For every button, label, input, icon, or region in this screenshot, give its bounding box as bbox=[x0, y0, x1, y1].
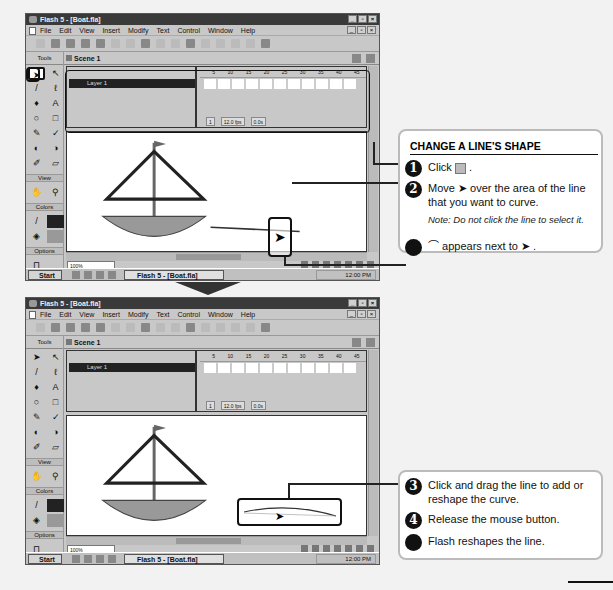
scroll-thumb[interactable] bbox=[176, 254, 241, 260]
frame-cells[interactable] bbox=[204, 363, 356, 373]
rectangle-tool-icon[interactable]: □ bbox=[47, 396, 64, 409]
pencil-tool-icon[interactable]: ✎ bbox=[28, 411, 45, 424]
stroke-color-swatch[interactable] bbox=[47, 215, 64, 228]
pen-tool-icon[interactable]: ♦ bbox=[28, 97, 45, 110]
doc-restore-button[interactable]: ▫ bbox=[357, 26, 366, 34]
movie-explorer-icon[interactable] bbox=[345, 545, 352, 552]
redo-icon[interactable] bbox=[171, 39, 180, 48]
eyedropper-icon[interactable]: ✐ bbox=[28, 157, 45, 170]
smooth-icon[interactable] bbox=[201, 323, 210, 332]
line-tool-icon[interactable]: / bbox=[28, 82, 45, 95]
hand-tool-icon[interactable]: ✋ bbox=[28, 186, 45, 199]
brush-tool-icon[interactable]: ✓ bbox=[47, 127, 64, 140]
new-icon[interactable] bbox=[36, 39, 45, 48]
menu-modify[interactable]: Modify bbox=[128, 25, 149, 35]
scroll-thumb[interactable] bbox=[176, 538, 241, 544]
menu-text[interactable]: Text bbox=[157, 25, 170, 35]
scale-icon[interactable] bbox=[246, 323, 255, 332]
quicklaunch-icon[interactable] bbox=[72, 271, 80, 279]
fill-color-swatch[interactable] bbox=[47, 230, 64, 243]
doc-close-button[interactable]: × bbox=[367, 310, 376, 318]
eyedropper-icon[interactable]: ✐ bbox=[28, 441, 45, 454]
paste-icon[interactable] bbox=[141, 323, 150, 332]
vertical-scrollbar[interactable] bbox=[368, 350, 378, 536]
oval-tool-icon[interactable]: ○ bbox=[28, 396, 45, 409]
mixer-icon[interactable] bbox=[312, 545, 319, 552]
subselect-tool-icon[interactable]: ↖ bbox=[47, 351, 64, 364]
menu-window[interactable]: Window bbox=[208, 25, 233, 35]
edit-symbols-icon[interactable] bbox=[366, 54, 375, 63]
fill-color-swatch[interactable] bbox=[47, 514, 64, 527]
horizontal-scrollbar[interactable] bbox=[66, 536, 367, 545]
menu-view[interactable]: View bbox=[79, 309, 94, 319]
paste-icon[interactable] bbox=[141, 39, 150, 48]
menu-view[interactable]: View bbox=[79, 25, 94, 35]
fill-color-icon[interactable]: ◈ bbox=[28, 514, 45, 527]
smooth-icon[interactable] bbox=[201, 39, 210, 48]
quicklaunch-icon[interactable] bbox=[84, 271, 92, 279]
info-icon[interactable] bbox=[301, 545, 308, 552]
library-icon[interactable] bbox=[367, 545, 374, 552]
align-icon[interactable] bbox=[261, 323, 270, 332]
menu-control[interactable]: Control bbox=[177, 309, 200, 319]
doc-restore-button[interactable]: ▫ bbox=[357, 310, 366, 318]
minimize-button[interactable]: _ bbox=[348, 15, 357, 23]
horizontal-scrollbar[interactable] bbox=[66, 252, 367, 261]
copy-icon[interactable] bbox=[126, 323, 135, 332]
brush-tool-icon[interactable]: ✓ bbox=[47, 411, 64, 424]
zoom-tool-icon[interactable]: ⚲ bbox=[47, 470, 64, 483]
stroke-color-swatch[interactable] bbox=[47, 499, 64, 512]
cut-icon[interactable] bbox=[111, 39, 120, 48]
taskbar-flash-button[interactable]: Flash 5 - [Boat.fla] bbox=[124, 554, 224, 564]
taskbar-flash-button[interactable]: Flash 5 - [Boat.fla] bbox=[124, 270, 224, 280]
zoom-tool-icon[interactable]: ⚲ bbox=[47, 186, 64, 199]
ink-bottle-icon[interactable]: ◐ bbox=[28, 426, 45, 439]
pencil-tool-icon[interactable]: ✎ bbox=[28, 127, 45, 140]
menu-file[interactable]: File bbox=[40, 309, 51, 319]
print-icon[interactable] bbox=[81, 323, 90, 332]
quicklaunch-icon[interactable] bbox=[96, 555, 104, 563]
menu-edit[interactable]: Edit bbox=[59, 309, 71, 319]
text-tool-icon[interactable]: A bbox=[47, 97, 64, 110]
snap-icon[interactable] bbox=[186, 39, 195, 48]
close-button[interactable]: × bbox=[368, 15, 377, 23]
menu-modify[interactable]: Modify bbox=[128, 309, 149, 319]
fill-color-icon[interactable]: ◈ bbox=[28, 230, 45, 243]
menu-help[interactable]: Help bbox=[241, 25, 255, 35]
rotate-icon[interactable] bbox=[231, 39, 240, 48]
menu-window[interactable]: Window bbox=[208, 309, 233, 319]
minimize-button[interactable]: _ bbox=[348, 299, 357, 307]
actions-icon[interactable] bbox=[356, 545, 363, 552]
menu-insert[interactable]: Insert bbox=[102, 25, 120, 35]
rotate-icon[interactable] bbox=[231, 323, 240, 332]
menu-file[interactable]: File bbox=[40, 25, 51, 35]
stroke-color-icon[interactable]: / bbox=[28, 215, 45, 228]
paint-bucket-icon[interactable]: ◑ bbox=[47, 142, 64, 155]
quicklaunch-icon[interactable] bbox=[108, 555, 116, 563]
maximize-button[interactable]: ▫ bbox=[358, 15, 367, 23]
print-preview-icon[interactable] bbox=[96, 39, 105, 48]
lasso-tool-icon[interactable]: ℓ bbox=[47, 366, 64, 379]
start-button[interactable]: Start bbox=[28, 554, 62, 564]
edit-scene-icon[interactable] bbox=[352, 54, 361, 63]
text-tool-icon[interactable]: A bbox=[47, 381, 64, 394]
doc-minimize-button[interactable]: _ bbox=[347, 310, 356, 318]
menu-text[interactable]: Text bbox=[157, 309, 170, 319]
scale-icon[interactable] bbox=[246, 39, 255, 48]
undo-icon[interactable] bbox=[156, 39, 165, 48]
quicklaunch-icon[interactable] bbox=[72, 555, 80, 563]
paint-bucket-icon[interactable]: ◑ bbox=[47, 426, 64, 439]
line-tool-icon[interactable]: / bbox=[28, 366, 45, 379]
edit-symbols-icon[interactable] bbox=[366, 338, 375, 347]
quicklaunch-icon[interactable] bbox=[84, 555, 92, 563]
doc-close-button[interactable]: × bbox=[367, 26, 376, 34]
quicklaunch-icon[interactable] bbox=[96, 271, 104, 279]
new-icon[interactable] bbox=[36, 323, 45, 332]
edit-scene-icon[interactable] bbox=[352, 338, 361, 347]
lasso-tool-icon[interactable]: ℓ bbox=[47, 82, 64, 95]
cut-icon[interactable] bbox=[111, 323, 120, 332]
start-button[interactable]: Start bbox=[28, 270, 62, 280]
straighten-icon[interactable] bbox=[216, 39, 225, 48]
print-icon[interactable] bbox=[81, 39, 90, 48]
layer-row[interactable]: Layer 1 bbox=[69, 363, 195, 372]
